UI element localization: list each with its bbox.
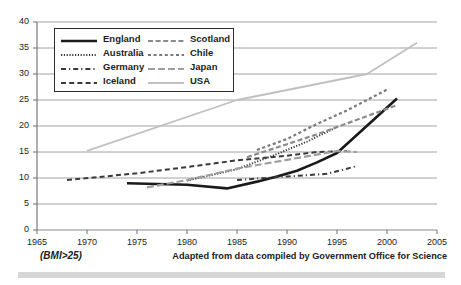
y-tick-label: 20 — [5, 120, 29, 130]
chart-figure: 0510152025303540 19651970197519801985199… — [0, 0, 461, 285]
x-tick-label: 2000 — [367, 237, 407, 247]
x-tick-label: 1990 — [267, 237, 307, 247]
y-tick-label: 0 — [5, 224, 29, 234]
legend-item-iceland: Iceland — [60, 74, 144, 88]
series-line-chile — [257, 90, 387, 150]
chart-legend: EnglandAustraliaGermanyIceland ScotlandC… — [54, 28, 234, 92]
legend-swatch-icon — [147, 75, 185, 87]
y-tick-label: 5 — [5, 198, 29, 208]
legend-column-right: ScotlandChileJapanUSA — [147, 32, 230, 88]
y-tick-label: 10 — [5, 172, 29, 182]
series-line-england — [127, 98, 397, 188]
x-tick-label: 1975 — [117, 237, 157, 247]
legend-swatch-icon — [147, 61, 185, 73]
legend-item-chile: Chile — [147, 46, 230, 60]
legend-item-label: England — [103, 33, 140, 45]
series-line-scotland — [247, 105, 397, 157]
y-tick-label: 25 — [5, 94, 29, 104]
legend-item-scotland: Scotland — [147, 32, 230, 46]
x-tick-label: 1965 — [17, 237, 57, 247]
legend-swatch-icon — [147, 33, 185, 45]
y-tick-label: 15 — [5, 146, 29, 156]
x-tick-label: 1985 — [217, 237, 257, 247]
legend-item-label: Germany — [103, 61, 144, 73]
legend-swatch-icon — [60, 47, 98, 59]
legend-swatch-icon — [147, 47, 185, 59]
y-tick-label: 40 — [5, 16, 29, 26]
legend-item-label: USA — [190, 75, 210, 87]
y-tick-label: 30 — [5, 68, 29, 78]
legend-item-label: Japan — [190, 61, 217, 73]
legend-swatch-icon — [60, 33, 98, 45]
legend-item-label: Scotland — [190, 33, 230, 45]
legend-item-japan: Japan — [147, 60, 230, 74]
legend-swatch-icon — [60, 75, 98, 87]
legend-item-label: Iceland — [103, 75, 136, 87]
legend-column-left: EnglandAustraliaGermanyIceland — [60, 32, 144, 88]
legend-item-australia: Australia — [60, 46, 144, 60]
source-attribution: Adapted from data compiled by Government… — [172, 251, 447, 261]
x-tick-label: 2005 — [417, 237, 457, 247]
x-tick-label: 1970 — [67, 237, 107, 247]
chart-footer: (BMI>25) Adapted from data compiled by G… — [0, 250, 461, 268]
legend-item-england: England — [60, 32, 144, 46]
bottom-divider-bar — [18, 272, 445, 278]
bmi-annotation: (BMI>25) — [40, 250, 82, 261]
legend-item-germany: Germany — [60, 60, 144, 74]
legend-swatch-icon — [60, 61, 98, 73]
legend-item-usa: USA — [147, 74, 230, 88]
legend-item-label: Australia — [103, 47, 144, 59]
x-tick-label: 1995 — [317, 237, 357, 247]
y-tick-label: 35 — [5, 42, 29, 52]
x-tick-label: 1980 — [167, 237, 207, 247]
legend-item-label: Chile — [190, 47, 213, 59]
